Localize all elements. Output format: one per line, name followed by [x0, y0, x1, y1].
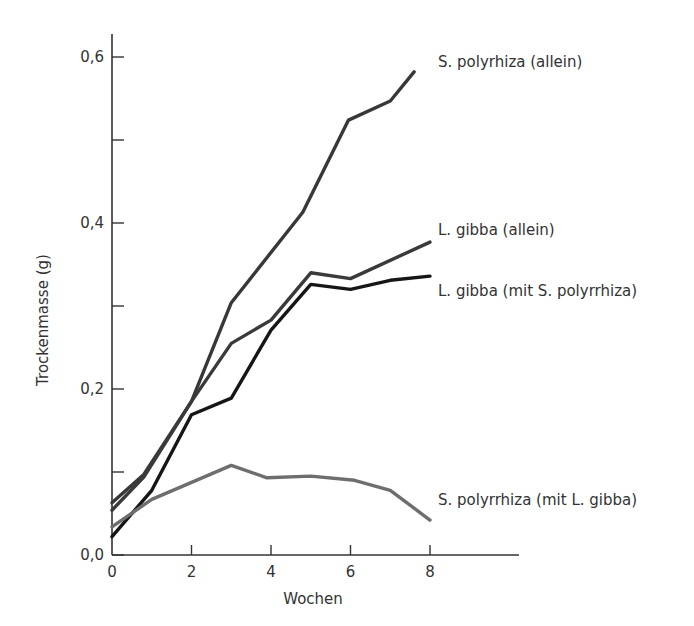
- y-tick-label: 0,2: [80, 380, 104, 398]
- series-label: L. gibba (mit S. polyrrhiza): [438, 282, 637, 300]
- series-label: S. polyrhiza (allein): [438, 53, 582, 71]
- line-chart: 0,00,20,40,6 02468 S. polyrhiza (allein)…: [0, 0, 694, 626]
- x-axis-title: Wochen: [283, 590, 343, 608]
- y-ticks: 0,00,20,40,6: [80, 48, 124, 564]
- x-tick-label: 8: [425, 563, 435, 581]
- series-layer: [112, 72, 430, 537]
- x-ticks: 02468: [107, 545, 435, 581]
- series-label: L. gibba (allein): [438, 221, 555, 239]
- y-tick-label: 0,0: [80, 546, 104, 564]
- y-axis-title: Trockenmasse (g): [34, 254, 52, 387]
- series-label: S. polyrrhiza (mit L. gibba): [438, 491, 637, 509]
- series-line-0: [112, 72, 414, 503]
- x-tick-label: 6: [346, 563, 356, 581]
- x-tick-label: 0: [107, 563, 117, 581]
- series-labels: S. polyrhiza (allein)L. gibba (allein)L.…: [438, 53, 637, 509]
- x-tick-label: 2: [187, 563, 197, 581]
- x-tick-label: 4: [266, 563, 276, 581]
- y-tick-label: 0,6: [80, 48, 104, 66]
- y-tick-label: 0,4: [80, 214, 104, 232]
